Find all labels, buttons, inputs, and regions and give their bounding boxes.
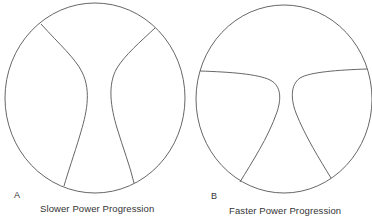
- panel-b-right-curve: [292, 69, 367, 178]
- panel-a-diagram: [5, 3, 185, 193]
- panel-a-circle: [5, 3, 185, 193]
- panel-b-circle: [196, 5, 372, 193]
- panel-b-diagram: [196, 5, 372, 193]
- diagram-canvas: [0, 0, 372, 219]
- panel-a-right-curve: [111, 28, 155, 183]
- panel-a-caption: Slower Power Progression: [40, 203, 154, 214]
- panel-a-label: A: [14, 190, 20, 200]
- panel-b-label: B: [211, 191, 217, 201]
- panel-b-caption: Faster Power Progression: [229, 205, 341, 216]
- panel-b-left-curve: [200, 71, 280, 182]
- panel-a-left-curve: [41, 24, 87, 186]
